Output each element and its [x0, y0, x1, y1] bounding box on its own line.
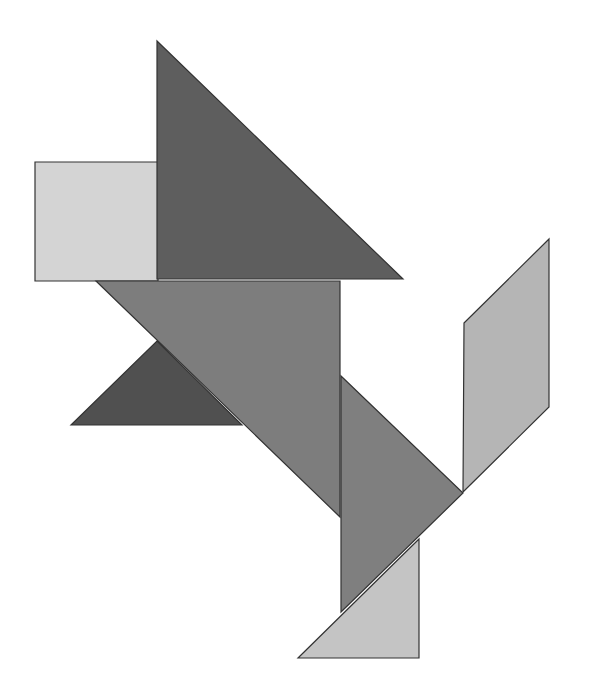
large-triangle-top-piece: [157, 41, 403, 279]
parallelogram-piece: [463, 239, 549, 492]
tangram-canvas: [0, 0, 591, 692]
square-piece: [35, 162, 158, 281]
